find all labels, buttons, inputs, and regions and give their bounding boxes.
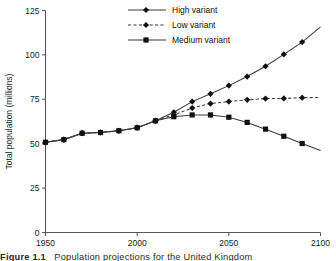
series-path bbox=[46, 98, 321, 143]
data-point bbox=[208, 112, 213, 117]
data-point bbox=[189, 105, 195, 111]
x-tick-label: 2100 bbox=[311, 238, 330, 248]
caption-text: Population projections for the United Ki… bbox=[54, 252, 252, 261]
y-tick-label: 100 bbox=[25, 50, 39, 60]
legend-marker-diamond bbox=[143, 22, 149, 28]
y-axis-title: Total population (millions) bbox=[4, 73, 14, 169]
chart-canvas: 02550751001251950200020502100Total popul… bbox=[0, 0, 336, 261]
data-point bbox=[281, 95, 287, 101]
legend-label: High variant bbox=[172, 5, 218, 15]
y-tick-label: 125 bbox=[25, 6, 39, 16]
data-point bbox=[300, 141, 305, 146]
data-point bbox=[226, 83, 232, 89]
x-tick-label: 2050 bbox=[219, 238, 238, 248]
data-point bbox=[244, 97, 250, 103]
data-point bbox=[135, 125, 140, 130]
data-point bbox=[189, 99, 195, 105]
data-point bbox=[207, 91, 213, 97]
legend-marker-square bbox=[143, 37, 148, 42]
data-point bbox=[171, 114, 176, 119]
data-point bbox=[207, 100, 213, 106]
series-low-variant bbox=[42, 95, 320, 146]
caption-number: Figure 1.1 bbox=[0, 252, 46, 261]
legend-label: Medium variant bbox=[172, 35, 231, 45]
series-path bbox=[46, 115, 321, 151]
y-tick-label: 25 bbox=[30, 183, 40, 193]
legend: High variantLow variantMedium variant bbox=[128, 5, 231, 45]
data-point bbox=[281, 134, 286, 139]
data-point bbox=[281, 51, 287, 57]
data-point bbox=[262, 63, 268, 69]
data-point bbox=[263, 127, 268, 132]
data-point bbox=[43, 140, 48, 145]
data-point bbox=[226, 99, 232, 105]
figure-caption: Figure 1.1 Population projections for th… bbox=[0, 252, 336, 261]
data-point bbox=[153, 118, 158, 123]
data-point bbox=[190, 112, 195, 117]
data-point bbox=[80, 131, 85, 136]
data-point bbox=[262, 95, 268, 101]
data-point bbox=[226, 115, 231, 120]
x-tick-label: 1950 bbox=[36, 238, 55, 248]
data-point bbox=[244, 73, 250, 79]
figure-population-projections: 02550751001251950200020502100Total popul… bbox=[0, 0, 336, 261]
legend-marker-diamond bbox=[143, 7, 149, 13]
data-point bbox=[299, 95, 305, 101]
legend-label: Low variant bbox=[172, 20, 216, 30]
data-point bbox=[116, 128, 121, 133]
series-medium-variant bbox=[43, 112, 321, 150]
data-point bbox=[98, 130, 103, 135]
x-tick-label: 2000 bbox=[128, 238, 147, 248]
y-tick-label: 0 bbox=[35, 228, 40, 238]
data-point bbox=[245, 120, 250, 125]
y-tick-label: 75 bbox=[30, 94, 40, 104]
data-point bbox=[61, 137, 66, 142]
y-tick-label: 50 bbox=[30, 139, 40, 149]
